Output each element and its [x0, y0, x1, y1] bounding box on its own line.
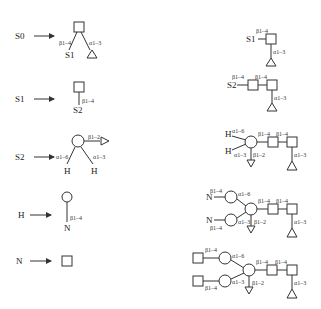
circle-icon [72, 135, 84, 147]
svg-text:β1–2: β1–2 [252, 280, 264, 286]
triangle-icon [101, 137, 109, 145]
svg-text:β1–4: β1–4 [276, 198, 288, 204]
svg-text:N: N [64, 223, 71, 233]
rule-n: N [16, 256, 72, 266]
svg-text:H: H [225, 129, 232, 139]
svg-text:α1–6: α1–6 [238, 191, 250, 197]
rule-s1: S1 β1–4 S2 [15, 82, 94, 115]
svg-text:α1–3: α1–3 [234, 152, 246, 158]
svg-text:β1–4: β1–4 [70, 215, 82, 221]
svg-text:S2: S2 [15, 152, 25, 162]
svg-text:α1–3: α1–3 [89, 40, 101, 46]
derivation-5: β1–4 α1–6 β1–4 α1–3 β1–4 β1–4 β1–2 α1–3 [193, 247, 306, 298]
svg-text:β1–4: β1–4 [205, 285, 217, 291]
svg-text:β1–2: β1–2 [254, 219, 266, 225]
triangle-icon [87, 50, 97, 58]
svg-text:α1–3: α1–3 [294, 280, 306, 286]
svg-text:H: H [225, 146, 232, 156]
svg-text:β1–2: β1–2 [88, 134, 100, 140]
rule-h: H β1–4 N [18, 192, 82, 233]
svg-text:α1–3: α1–3 [274, 95, 286, 101]
svg-text:S1: S1 [246, 34, 256, 44]
svg-text:β1–4: β1–4 [59, 40, 71, 46]
svg-text:S1: S1 [65, 50, 75, 60]
svg-text:α1–6: α1–6 [232, 253, 244, 259]
svg-text:α1–6: α1–6 [56, 154, 68, 160]
svg-text:α1–3: α1–3 [93, 154, 105, 160]
svg-text:β1–4: β1–4 [232, 74, 244, 80]
svg-text:β1–4: β1–4 [256, 259, 268, 265]
svg-text:S1: S1 [15, 94, 25, 104]
svg-text:S2: S2 [73, 105, 83, 115]
derivation-1: S1 β1–4 α1–3 [246, 28, 285, 66]
rule-s2: S2 β1–2 α1–6 α1–3 H H [15, 134, 109, 176]
square-icon [74, 22, 84, 32]
svg-text:β1–4: β1–4 [210, 225, 222, 231]
derivation-3: H α1–6 H α1–3 β1–4 β1–4 β1–2 α1–3 [225, 128, 306, 170]
svg-text:β1–4: β1–4 [210, 188, 222, 194]
derivation-2: S2 β1–4 β1–4 α1–3 [227, 74, 286, 111]
svg-text:β1–4: β1–4 [256, 28, 268, 34]
svg-text:α1–3: α1–3 [273, 49, 285, 55]
circle-icon [62, 192, 72, 202]
svg-text:α1–3: α1–3 [238, 219, 250, 225]
svg-text:β1–4: β1–4 [205, 247, 217, 253]
square-icon [62, 256, 72, 266]
derivation-4: N β1–4 α1–6 N β1–4 α1–3 β1–4 β1–4 β1–2 α… [206, 188, 306, 237]
svg-text:β1–4: β1–4 [255, 74, 267, 80]
svg-text:S2: S2 [227, 80, 237, 90]
lhs-label: S0 [15, 31, 25, 41]
svg-text:α1–6: α1–6 [232, 128, 244, 134]
square-icon [74, 82, 84, 92]
svg-text:β1–4: β1–4 [276, 131, 288, 137]
svg-text:α1–3: α1–3 [294, 219, 306, 225]
svg-text:N: N [16, 256, 23, 266]
svg-text:β1–4: β1–4 [275, 259, 287, 265]
svg-text:β1–2: β1–2 [253, 152, 265, 158]
svg-text:β1–4: β1–4 [82, 98, 94, 104]
svg-text:H: H [64, 166, 71, 176]
glycan-grammar-diagram: S0 β1–4 α1–3 S1 S1 β1–4 S2 S2 β1–2 α1–6 … [0, 0, 321, 309]
svg-text:β1–4: β1–4 [258, 198, 270, 204]
svg-text:H: H [91, 166, 98, 176]
svg-text:α1–3: α1–3 [232, 279, 244, 285]
svg-text:α1–3: α1–3 [294, 152, 306, 158]
rule-s0: S0 β1–4 α1–3 S1 [15, 22, 101, 60]
svg-text:H: H [18, 210, 25, 220]
svg-text:β1–4: β1–4 [258, 131, 270, 137]
svg-text:N: N [206, 215, 213, 225]
